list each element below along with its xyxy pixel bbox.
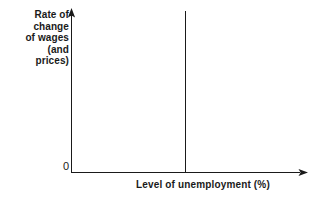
phillips-curve-figure: Rate of change of wages (and prices) 0 L… bbox=[0, 0, 319, 201]
y-axis-label: Rate of change of wages (and prices) bbox=[6, 9, 69, 67]
x-axis-label: Level of unemployment (%) bbox=[100, 179, 306, 191]
origin-label: 0 bbox=[58, 160, 69, 172]
